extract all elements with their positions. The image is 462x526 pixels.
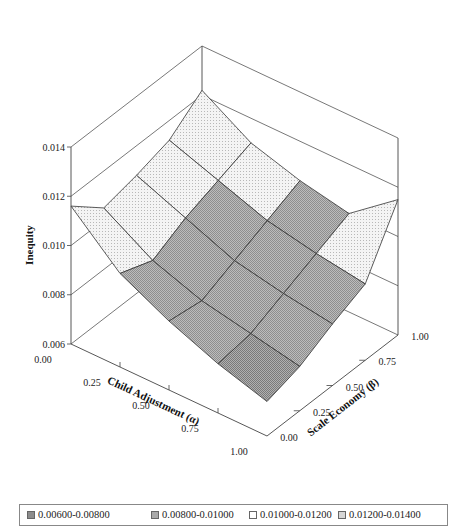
y-tick-label: 1.00 xyxy=(411,331,429,342)
y-tick-label: 0.00 xyxy=(280,432,298,443)
legend-label: 0.01200-0.01400 xyxy=(349,509,421,520)
legend-swatch-light xyxy=(338,511,346,519)
legend-item: 0.01000-0.01200 xyxy=(249,509,332,520)
x-tick-label: 1.00 xyxy=(230,446,248,457)
z-tick-label: 0.014 xyxy=(43,142,66,153)
legend-item: 0.00600-0.00800 xyxy=(27,509,110,520)
x-axis-title: Child Adjustment (α) xyxy=(105,374,202,428)
z-tick-label: 0.008 xyxy=(43,289,66,300)
legend-swatch-mid xyxy=(151,511,159,519)
legend-swatch-dark xyxy=(27,511,35,519)
legend-label: 0.00800-0.01000 xyxy=(162,509,234,520)
legend-label: 0.00600-0.00800 xyxy=(38,509,110,520)
z-tick-label: 0.010 xyxy=(43,240,66,251)
x-tick-label: 0.25 xyxy=(83,377,101,388)
legend: 0.00600-0.00800 0.00800-0.01000 0.01000-… xyxy=(19,504,448,526)
z-tick-label: 0.006 xyxy=(43,339,66,350)
legend-item: 0.01200-0.01400 xyxy=(338,509,421,520)
x-tick-label: 0.00 xyxy=(34,354,52,365)
legend-item: 0.00800-0.01000 xyxy=(151,509,234,520)
legend-swatch-white xyxy=(249,511,257,519)
surface-mesh xyxy=(71,90,398,401)
y-tick-label: 0.75 xyxy=(379,356,397,367)
z-tick-label: 0.012 xyxy=(43,191,66,202)
legend-label: 0.01000-0.01200 xyxy=(260,509,332,520)
z-axis-title: Inequity xyxy=(23,225,35,265)
